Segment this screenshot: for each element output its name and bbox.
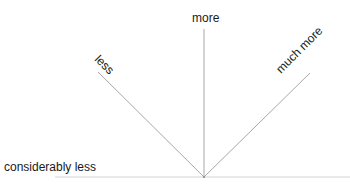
ray-much-more (204, 73, 310, 177)
ray-less (98, 72, 204, 177)
label-more: more (192, 11, 219, 25)
label-considerably-less: considerably less (4, 160, 96, 174)
vertex-point (203, 176, 205, 178)
